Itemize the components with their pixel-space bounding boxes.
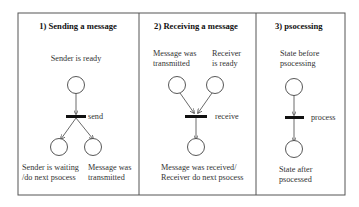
place-label: State after <box>279 165 313 174</box>
panel-title: 1) Sending a message <box>39 21 117 31</box>
place-label: State before <box>280 49 320 58</box>
place-label: psocessed <box>279 175 312 184</box>
place-circle <box>169 77 186 94</box>
place-label: transmitted <box>153 59 190 68</box>
place-circle <box>207 77 224 94</box>
place-label: Message was <box>153 49 196 58</box>
transition-label: process <box>311 113 336 122</box>
transition-label: receive <box>215 112 239 121</box>
place-circle <box>286 141 303 158</box>
transition-label: send <box>88 112 103 121</box>
place-label: Message was <box>88 163 131 172</box>
transition-bar <box>285 116 304 119</box>
place-circle <box>68 77 85 94</box>
transition-bar <box>66 115 86 118</box>
place-circle <box>286 79 303 96</box>
place-circle <box>85 139 102 156</box>
place-label: Sender is ready <box>51 54 102 63</box>
place-label: Message was received/ <box>161 163 237 172</box>
panel-processing: 3) psocessing State before psocessing pr… <box>275 21 336 184</box>
place-label: /do next psocess <box>22 173 76 182</box>
place-label: Sender is waiting <box>22 163 79 172</box>
petri-net-diagram: 1) Sending a message Sender is ready sen… <box>0 0 359 207</box>
place-label: Receiver <box>212 49 241 58</box>
place-label: is ready <box>212 59 239 68</box>
panel-sending: 1) Sending a message Sender is ready sen… <box>22 21 131 182</box>
place-circle <box>51 139 68 156</box>
panel-title: 2) Receiving a message <box>154 21 238 31</box>
place-circle <box>188 139 205 156</box>
panel-title: 3) psocessing <box>275 21 323 31</box>
place-label: Receiver do next psocess <box>161 173 244 182</box>
transition-bar <box>185 115 207 118</box>
panel-receiving: 2) Receiving a message Message was trans… <box>153 21 244 182</box>
place-label: transmitted <box>88 173 125 182</box>
place-label: psocessing <box>280 59 315 68</box>
